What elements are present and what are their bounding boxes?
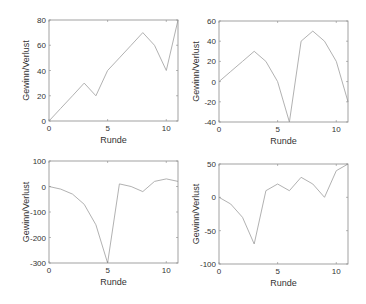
y-axis-label: Gewinn/Verlust bbox=[21, 181, 31, 242]
data-line bbox=[219, 31, 348, 122]
x-axis-label: Runde bbox=[270, 278, 297, 288]
subplot-bottom-right: 0510-100-50050RundeGewinn/Verlust bbox=[191, 160, 348, 288]
y-tick-label: 0 bbox=[212, 78, 217, 87]
y-tick-label: -100 bbox=[30, 208, 47, 217]
axes-box bbox=[219, 164, 348, 264]
x-tick-label: 0 bbox=[217, 125, 222, 134]
y-tick-label: 0 bbox=[42, 183, 47, 192]
subplot-top-right: 0510-40-200204060RundeGewinn/Verlust bbox=[191, 17, 348, 146]
x-axis-label: Runde bbox=[100, 277, 127, 287]
y-axis-label: Gewinn/Verlust bbox=[191, 41, 201, 102]
x-tick-label: 10 bbox=[332, 267, 341, 276]
x-tick-label: 10 bbox=[162, 124, 171, 133]
y-tick-label: 20 bbox=[37, 92, 46, 101]
axes-box bbox=[219, 21, 348, 122]
y-tick-label: -300 bbox=[30, 259, 47, 268]
figure-canvas: 0510020406080RundeGewinn/Verlust 0510-40… bbox=[0, 0, 366, 304]
subplot-top-left: 0510020406080RundeGewinn/Verlust bbox=[21, 16, 178, 145]
x-axis-label: Runde bbox=[100, 135, 127, 145]
y-tick-label: 60 bbox=[37, 41, 46, 50]
x-tick-label: 0 bbox=[217, 267, 222, 276]
y-tick-label: -100 bbox=[200, 260, 217, 269]
y-tick-label: -20 bbox=[204, 98, 216, 107]
y-axis-label: Gewinn/Verlust bbox=[21, 40, 31, 101]
axes-box bbox=[49, 161, 178, 263]
x-tick-label: 10 bbox=[162, 266, 171, 275]
y-tick-label: 40 bbox=[37, 67, 46, 76]
data-line bbox=[49, 179, 178, 263]
y-tick-label: 50 bbox=[207, 160, 216, 169]
x-axis-label: Runde bbox=[270, 136, 297, 146]
y-tick-label: 0 bbox=[42, 117, 47, 126]
subplot-bottom-left: 0510-300-200-1000100RundeGewinn/Verlust bbox=[21, 157, 178, 287]
figure: 0510020406080RundeGewinn/Verlust 0510-40… bbox=[0, 0, 366, 304]
x-tick-label: 5 bbox=[105, 266, 110, 275]
y-tick-label: -50 bbox=[204, 227, 216, 236]
data-line bbox=[49, 20, 178, 121]
x-tick-label: 5 bbox=[105, 124, 110, 133]
y-tick-label: -200 bbox=[30, 234, 47, 243]
x-tick-label: 0 bbox=[47, 124, 52, 133]
y-tick-label: 20 bbox=[207, 57, 216, 66]
y-tick-label: 0 bbox=[212, 193, 217, 202]
y-tick-label: 80 bbox=[37, 16, 46, 25]
y-tick-label: 40 bbox=[207, 37, 216, 46]
x-tick-label: 10 bbox=[332, 125, 341, 134]
x-tick-label: 0 bbox=[47, 266, 52, 275]
y-tick-label: -40 bbox=[204, 118, 216, 127]
data-line bbox=[219, 164, 348, 244]
x-tick-label: 5 bbox=[275, 125, 280, 134]
y-axis-label: Gewinn/Verlust bbox=[191, 183, 201, 244]
y-tick-label: 60 bbox=[207, 17, 216, 26]
axes-box bbox=[49, 20, 178, 121]
y-tick-label: 100 bbox=[33, 157, 47, 166]
x-tick-label: 5 bbox=[275, 267, 280, 276]
